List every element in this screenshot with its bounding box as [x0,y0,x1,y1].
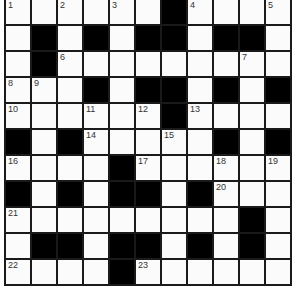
black-square [136,234,160,258]
crossword-cell-r2-c10[interactable] [266,52,290,76]
crossword-cell-r7-c10[interactable] [266,182,290,206]
crossword-cell-r3-c7[interactable] [188,78,212,102]
crossword-cell-r1-c2[interactable] [58,26,82,50]
black-square [266,78,290,102]
crossword-cell-r0-c2[interactable]: 2 [58,0,82,24]
clue-number: 4 [190,1,195,10]
crossword-cell-r7-c6[interactable] [162,182,186,206]
crossword-cell-r0-c9[interactable] [240,0,264,24]
crossword-cell-r0-c3[interactable] [84,0,108,24]
black-square [6,130,30,154]
crossword-cell-r6-c0[interactable]: 16 [6,156,30,180]
crossword-cell-r9-c3[interactable] [84,234,108,258]
crossword-cell-r7-c9[interactable] [240,182,264,206]
crossword-cell-r1-c10[interactable] [266,26,290,50]
crossword-cell-r8-c2[interactable] [58,208,82,232]
crossword-cell-r4-c1[interactable] [32,104,56,128]
crossword-cell-r2-c3[interactable] [84,52,108,76]
crossword-cell-r8-c1[interactable] [32,208,56,232]
crossword-cell-r0-c7[interactable]: 4 [188,0,212,24]
crossword-cell-r6-c1[interactable] [32,156,56,180]
crossword-cell-r10-c3[interactable] [84,260,108,284]
crossword-cell-r8-c7[interactable] [188,208,212,232]
crossword-cell-r6-c2[interactable] [58,156,82,180]
crossword-cell-r2-c9[interactable]: 7 [240,52,264,76]
crossword-cell-r2-c8[interactable] [214,52,238,76]
crossword-cell-r0-c4[interactable]: 3 [110,0,134,24]
crossword-cell-r4-c5[interactable]: 12 [136,104,160,128]
crossword-cell-r0-c10[interactable]: 5 [266,0,290,24]
crossword-cell-r8-c8[interactable] [214,208,238,232]
crossword-cell-r8-c0[interactable]: 21 [6,208,30,232]
crossword-cell-r4-c10[interactable] [266,104,290,128]
crossword-cell-r5-c9[interactable] [240,130,264,154]
crossword-cell-r3-c4[interactable] [110,78,134,102]
crossword-cell-r1-c7[interactable] [188,26,212,50]
crossword-cell-r4-c4[interactable] [110,104,134,128]
crossword-cell-r0-c0[interactable]: 1 [6,0,30,24]
crossword-cell-r0-c1[interactable] [32,0,56,24]
crossword-cell-r3-c2[interactable] [58,78,82,102]
crossword-cell-r8-c3[interactable] [84,208,108,232]
crossword-cell-r2-c7[interactable] [188,52,212,76]
black-square [58,234,82,258]
crossword-cell-r6-c5[interactable]: 17 [136,156,160,180]
crossword-cell-r1-c0[interactable] [6,26,30,50]
crossword-cell-r7-c3[interactable] [84,182,108,206]
crossword-cell-r7-c8[interactable]: 20 [214,182,238,206]
clue-number: 12 [138,105,148,114]
crossword-cell-r10-c2[interactable] [58,260,82,284]
crossword-cell-r4-c0[interactable]: 10 [6,104,30,128]
crossword-cell-r10-c9[interactable] [240,260,264,284]
crossword-cell-r9-c0[interactable] [6,234,30,258]
clue-number: 8 [8,79,13,88]
crossword-cell-r10-c1[interactable] [32,260,56,284]
crossword-cell-r10-c7[interactable] [188,260,212,284]
crossword-cell-r5-c4[interactable] [110,130,134,154]
clue-number: 1 [8,1,13,10]
crossword-cell-r2-c4[interactable] [110,52,134,76]
black-square [6,182,30,206]
crossword-cell-r8-c5[interactable] [136,208,160,232]
crossword-cell-r2-c2[interactable]: 6 [58,52,82,76]
crossword-cell-r4-c8[interactable] [214,104,238,128]
crossword-cell-r10-c0[interactable]: 22 [6,260,30,284]
crossword-cell-r9-c6[interactable] [162,234,186,258]
crossword-cell-r6-c8[interactable]: 18 [214,156,238,180]
crossword-cell-r10-c10[interactable] [266,260,290,284]
crossword-cell-r5-c3[interactable]: 14 [84,130,108,154]
crossword-cell-r0-c5[interactable] [136,0,160,24]
crossword-cell-r10-c5[interactable]: 23 [136,260,160,284]
crossword-cell-r7-c1[interactable] [32,182,56,206]
crossword-cell-r1-c4[interactable] [110,26,134,50]
crossword-cell-r5-c7[interactable] [188,130,212,154]
crossword-cell-r8-c4[interactable] [110,208,134,232]
crossword-cell-r5-c6[interactable]: 15 [162,130,186,154]
crossword-cell-r3-c1[interactable]: 9 [32,78,56,102]
crossword-cell-r8-c10[interactable] [266,208,290,232]
crossword-cell-r8-c6[interactable] [162,208,186,232]
crossword-cell-r6-c9[interactable] [240,156,264,180]
crossword-cell-r3-c0[interactable]: 8 [6,78,30,102]
crossword-cell-r10-c8[interactable] [214,260,238,284]
crossword-cell-r6-c6[interactable] [162,156,186,180]
crossword-cell-r2-c0[interactable] [6,52,30,76]
crossword-cell-r6-c3[interactable] [84,156,108,180]
crossword-cell-r4-c9[interactable] [240,104,264,128]
crossword-cell-r5-c5[interactable] [136,130,160,154]
crossword-cell-r4-c2[interactable] [58,104,82,128]
crossword-cell-r4-c7[interactable]: 13 [188,104,212,128]
crossword-cell-r5-c1[interactable] [32,130,56,154]
crossword-cell-r0-c8[interactable] [214,0,238,24]
crossword-cell-r9-c8[interactable] [214,234,238,258]
crossword-cell-r6-c7[interactable] [188,156,212,180]
black-square [110,156,134,180]
crossword-cell-r4-c3[interactable]: 11 [84,104,108,128]
crossword-cell-r10-c6[interactable] [162,260,186,284]
crossword-cell-r6-c10[interactable]: 19 [266,156,290,180]
crossword-cell-r2-c6[interactable] [162,52,186,76]
crossword-cell-r3-c9[interactable] [240,78,264,102]
crossword-cell-r9-c10[interactable] [266,234,290,258]
crossword-cell-r2-c5[interactable] [136,52,160,76]
clue-number: 14 [86,131,96,140]
